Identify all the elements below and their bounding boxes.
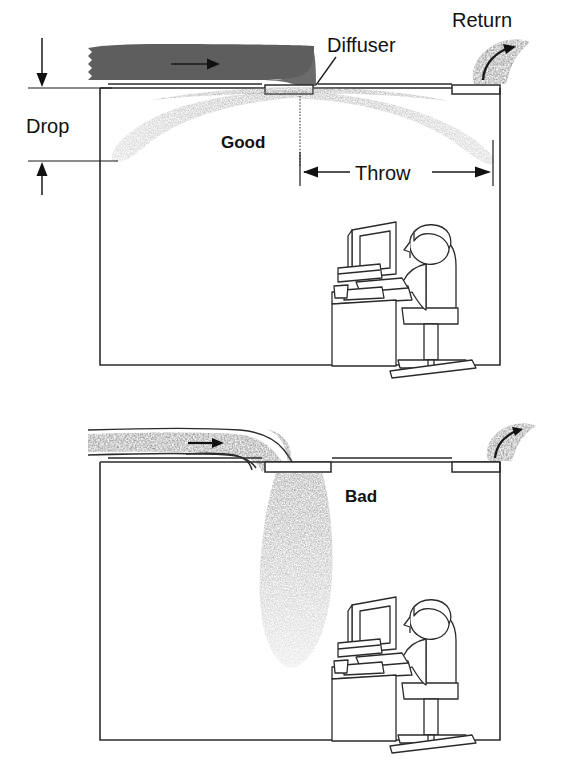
verdict-label-good: Good (221, 133, 265, 152)
diffuser-label-good: Diffuser (327, 34, 396, 56)
arrow-left-icon (303, 167, 318, 178)
panel-bad: Bad (88, 423, 536, 753)
air-jet-good (112, 87, 495, 164)
arrow-down-icon (37, 73, 48, 87)
return-grille-bad (452, 423, 536, 472)
verdict-label-bad: Bad (345, 487, 377, 506)
drop-label: Drop (26, 115, 69, 137)
return-label-good: Return (452, 9, 512, 31)
supply-duct-good (88, 44, 316, 86)
hvac-diffuser-diagram: Return Diffuser Drop (0, 0, 561, 778)
air-plume-bad (260, 472, 333, 668)
arrow-right-icon (475, 167, 491, 178)
diffuser-bad (265, 462, 331, 472)
workstation-bad (332, 597, 476, 753)
return-grille-good (452, 39, 530, 94)
diagram-canvas: Return Diffuser Drop (0, 0, 561, 778)
panel-good: Return Diffuser Drop (26, 9, 530, 378)
diffuser-leader-good (316, 57, 336, 85)
workstation-good (332, 222, 476, 378)
arrow-up-icon (37, 162, 48, 176)
throw-label: Throw (355, 162, 411, 184)
